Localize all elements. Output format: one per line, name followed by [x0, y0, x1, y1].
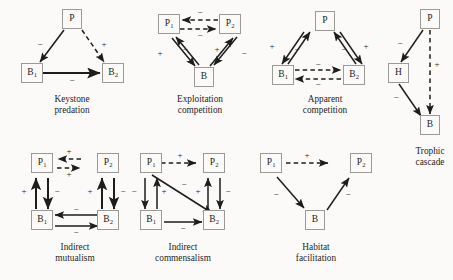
caption-line-2: commensalism: [133, 253, 233, 264]
sign-apparent-P-B1: −: [293, 45, 301, 54]
node-exploitation-P2[interactable]: P2: [219, 14, 241, 34]
sign-apparent-B1-B2: −: [314, 60, 322, 69]
figure-canvas: P B1 B2 P1 P2 B P B1 B2 P H B P1 P2 B1 B…: [0, 0, 453, 280]
node-commensalism-B2[interactable]: B2: [203, 210, 225, 230]
sign-exploitation-P2-B: −: [240, 49, 248, 58]
caption-apparent-competition: Apparent competition: [275, 94, 375, 117]
sign-exploitation-P1-B: −: [181, 45, 189, 54]
node-mutualism-P2[interactable]: P2: [97, 153, 119, 173]
sign-mutualism-P2-P1: +: [65, 147, 73, 156]
sign-mutualism-P2-B2: −: [119, 187, 127, 196]
node-trophic-H[interactable]: H: [388, 63, 409, 83]
sign-habitat-B-P2: −: [344, 190, 352, 199]
node-habitat-B[interactable]: B: [305, 210, 325, 230]
caption-line-1: Keystone: [22, 94, 122, 105]
caption-line-1: Indirect: [133, 242, 233, 253]
sign-habitat-P1-B: −: [272, 190, 280, 199]
caption-line-2: facilitation: [266, 253, 366, 264]
caption-line-1: Apparent: [275, 94, 375, 105]
caption-line-1: Indirect: [25, 242, 125, 253]
caption-line-1: Exploitation: [150, 94, 250, 105]
caption-line-2: competition: [150, 105, 250, 116]
sign-mutualism-P1-P2: +: [65, 170, 73, 179]
caption-line-2: mutualism: [25, 253, 125, 264]
caption-line-2: predation: [22, 105, 122, 116]
sign-commensalism-B2-P2: +: [194, 187, 202, 196]
node-apparent-B1[interactable]: B1: [272, 65, 294, 85]
sign-commensalism-B1-B2: −: [179, 224, 187, 233]
caption-exploitation-competition: Exploitation competition: [150, 94, 250, 117]
node-commensalism-P2[interactable]: P2: [203, 153, 225, 173]
node-mutualism-B2[interactable]: B2: [97, 210, 119, 230]
node-apparent-B2[interactable]: B2: [343, 65, 365, 85]
node-trophic-P[interactable]: P: [420, 9, 440, 29]
caption-line-1: Habitat: [266, 242, 366, 253]
caption-line-1: Trophic: [380, 146, 453, 157]
sign-apparent-B1-P: +: [268, 42, 276, 51]
sign-commensalism-P2-B2: −: [224, 187, 232, 196]
node-apparent-P[interactable]: P: [315, 11, 335, 31]
node-commensalism-P1[interactable]: P1: [140, 153, 162, 173]
sign-trophic-P-H: −: [396, 39, 404, 48]
caption-line-2: competition: [275, 105, 375, 116]
sign-exploitation-P2-P1: −: [196, 8, 204, 17]
sign-commensalism-P1-B1: −: [130, 187, 138, 196]
node-mutualism-B1[interactable]: B1: [31, 210, 53, 230]
caption-habitat-facilitation: Habitat facilitation: [266, 242, 366, 265]
caption-indirect-mutualism: Indirect mutualism: [25, 242, 125, 265]
sign-keystone-P-B2: +: [100, 40, 108, 49]
node-habitat-P1[interactable]: P1: [260, 153, 282, 173]
sign-exploitation-B-P2: +: [213, 45, 221, 54]
sign-apparent-B2-B1: −: [314, 80, 322, 89]
sign-mutualism-B1-P1: +: [20, 187, 28, 196]
caption-line-2: cascade: [380, 157, 453, 168]
node-habitat-P2[interactable]: P2: [350, 153, 372, 173]
sign-exploitation-P1-P2: −: [196, 31, 204, 40]
node-keystone-B2[interactable]: B2: [102, 63, 124, 83]
sign-trophic-P-B: +: [433, 60, 441, 69]
sign-keystone-P-B1: −: [36, 40, 44, 49]
sign-exploitation-B-P1: +: [156, 49, 164, 58]
caption-indirect-commensalism: Indirect commensalism: [133, 242, 233, 265]
sign-trophic-H-B: −: [392, 93, 400, 102]
arrow-layer: [0, 0, 453, 280]
sign-apparent-B2-P: +: [362, 42, 370, 51]
node-commensalism-B1[interactable]: B1: [140, 210, 162, 230]
sign-mutualism-B2-B1: −: [72, 205, 80, 214]
sign-commensalism-B1-P1: +: [160, 187, 168, 196]
node-exploitation-P1[interactable]: P1: [158, 14, 180, 34]
node-exploitation-B[interactable]: B: [194, 67, 214, 87]
sign-mutualism-B1-B2: −: [72, 228, 80, 237]
node-keystone-P[interactable]: P: [62, 9, 82, 29]
sign-habitat-P1-P2: +: [303, 151, 311, 160]
caption-keystone-predation: Keystone predation: [22, 94, 122, 117]
node-keystone-B1[interactable]: B1: [21, 63, 43, 83]
sign-mutualism-B2-P2: +: [86, 187, 94, 196]
sign-commensalism-P1-P2: +: [176, 151, 184, 160]
sign-mutualism-P1-B1: −: [53, 187, 61, 196]
sign-apparent-P-B2: −: [340, 45, 348, 54]
node-mutualism-P1[interactable]: P1: [31, 153, 53, 173]
sign-keystone-B1-B2: −: [68, 76, 76, 85]
caption-trophic-cascade: Trophic cascade: [380, 146, 453, 169]
sign-commensalism-P1-B2: −: [180, 180, 188, 189]
node-trophic-B[interactable]: B: [420, 115, 440, 135]
